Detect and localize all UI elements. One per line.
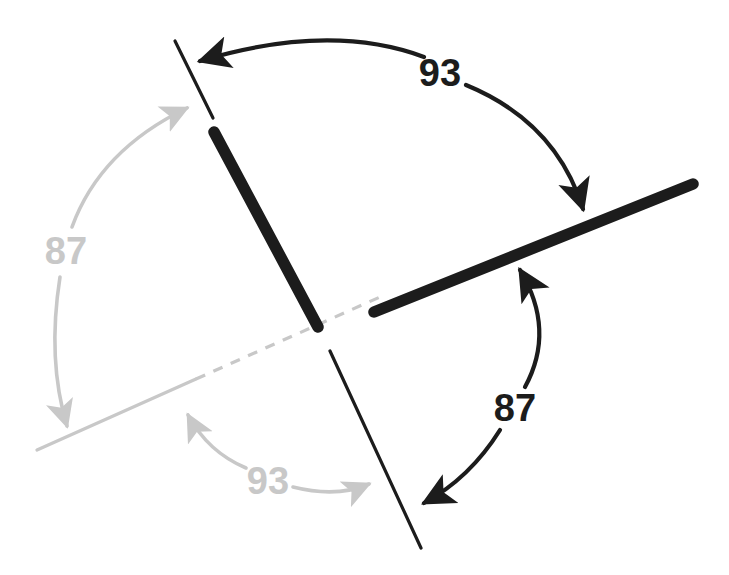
gray-ray-lower-left (37, 379, 196, 450)
thick-ray-upper-left (214, 132, 318, 327)
arc-gray-87-upper-segment (72, 108, 187, 227)
arc-black-93-right-segment (466, 85, 583, 209)
gray-ray-group (37, 297, 380, 450)
thick-black-ray-group (214, 132, 693, 327)
label-black-93: 93 (419, 52, 461, 94)
angle-diagram-svg: 93 87 87 93 (0, 0, 729, 575)
arc-black-93 (200, 40, 583, 209)
angle-diagram-canvas: 93 87 87 93 (0, 0, 729, 575)
label-black-87: 87 (494, 387, 536, 429)
thin-ray-lower (330, 351, 421, 548)
label-gray-93: 93 (247, 460, 289, 502)
gray-dashed-transversal (196, 297, 380, 379)
arc-black-87-upper-segment (520, 270, 539, 387)
arc-gray-87-lower-segment (55, 277, 67, 426)
arc-gray-93-left-segment (188, 415, 246, 468)
arc-black-87-lower-segment (424, 430, 500, 503)
arc-gray-93-right-segment (293, 484, 369, 492)
arc-black-93-left-segment (200, 40, 424, 61)
label-gray-87: 87 (45, 230, 87, 272)
thin-ray-upper-left (175, 41, 213, 118)
